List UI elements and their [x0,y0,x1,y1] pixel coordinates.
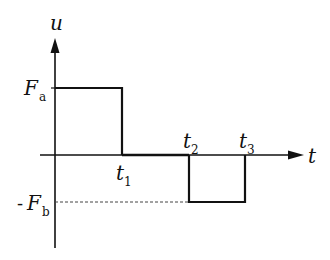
t3-label: t 3 [239,129,255,157]
svg-text:F: F [26,191,42,215]
positive-pulse [55,88,122,155]
svg-text:1: 1 [124,175,132,189]
x-axis-arrow-icon [288,151,304,160]
t1-label: t 1 [116,161,132,189]
diagram-svg: u t F a - F b t 1 t 2 t 3 [0,0,330,260]
svg-text:-: - [17,193,23,214]
fa-label: F a [23,76,46,104]
y-axis-arrow-icon [51,38,60,53]
svg-text:a: a [39,90,46,104]
x-axis-label: t [308,144,317,168]
negative-pulse [189,155,245,202]
svg-text:b: b [42,205,50,219]
svg-text:2: 2 [191,143,199,157]
svg-text:F: F [23,76,39,100]
svg-text:3: 3 [247,143,255,157]
fb-label: - F b [17,191,50,219]
t2-label: t 2 [183,129,199,157]
signal-diagram: u t F a - F b t 1 t 2 t 3 [0,0,330,260]
y-axis-label: u [50,11,63,35]
